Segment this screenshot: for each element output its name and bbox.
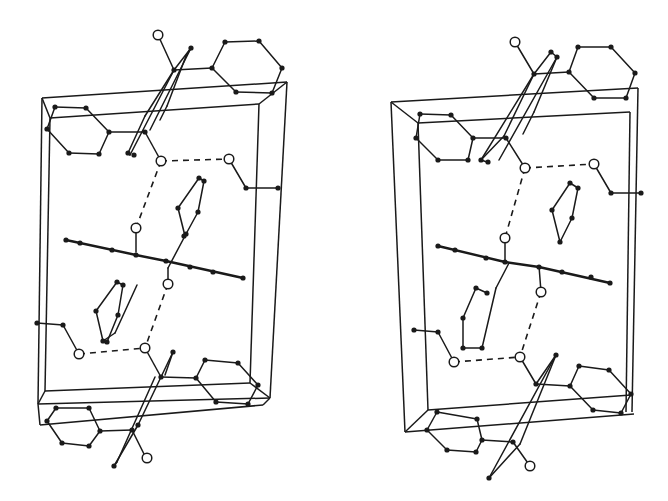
- carbon-atom: [435, 243, 440, 248]
- carbon-atom: [503, 135, 508, 140]
- oxygen-atom: [224, 154, 234, 164]
- covalent-bond: [236, 92, 272, 93]
- unit-cell-edge: [391, 88, 638, 102]
- carbon-atom: [63, 237, 68, 242]
- hydrogen-bond: [505, 168, 525, 238]
- carbon-atom: [536, 264, 541, 269]
- oxygen-atom: [589, 159, 599, 169]
- carbon-atom: [170, 349, 175, 354]
- carbon-atom: [557, 239, 562, 244]
- carbon-atom: [607, 280, 612, 285]
- covalent-bond: [534, 72, 569, 74]
- covalent-bond: [552, 183, 570, 210]
- covalent-bond: [128, 116, 145, 153]
- covalent-bond: [158, 35, 174, 70]
- covalent-bond: [100, 430, 132, 431]
- covalent-bond: [451, 115, 473, 138]
- covalent-bond: [165, 352, 173, 375]
- carbon-atom: [44, 126, 49, 131]
- covalent-bond: [414, 330, 438, 332]
- carbon-atom: [187, 264, 192, 269]
- covalent-bond: [161, 377, 196, 378]
- covalent-bond: [560, 218, 572, 242]
- carbon-atom: [554, 54, 559, 59]
- carbon-atom: [120, 282, 125, 287]
- carbon-atom: [142, 129, 147, 134]
- hydrogen-bond: [79, 348, 145, 354]
- covalent-bond: [178, 208, 185, 236]
- carbon-atom: [479, 437, 484, 442]
- carbon-atom: [235, 360, 240, 365]
- carbon-atom: [479, 345, 484, 350]
- covalent-bond: [248, 385, 258, 404]
- covalent-bond: [118, 285, 123, 315]
- carbon-atom: [97, 428, 102, 433]
- carbon-atom: [502, 259, 507, 264]
- covalent-bond: [520, 355, 556, 444]
- covalent-bond: [216, 402, 248, 404]
- carbon-atom: [114, 279, 119, 284]
- covalent-bond: [420, 114, 451, 115]
- carbon-atom: [125, 150, 130, 155]
- carbon-atom: [269, 90, 274, 95]
- oxygen-atom: [536, 287, 546, 297]
- carbon-atom: [201, 178, 206, 183]
- carbon-atom: [444, 447, 449, 452]
- unit-cell-edge: [405, 410, 428, 432]
- unit-cell-edge: [391, 102, 405, 432]
- covalent-bond: [69, 153, 99, 154]
- edge-on-ring-bond: [136, 255, 166, 261]
- covalent-bond: [437, 412, 477, 419]
- carbon-atom: [483, 255, 488, 260]
- carbon-atom: [52, 104, 57, 109]
- unit-cell-edge: [250, 104, 259, 383]
- carbon-atom: [553, 352, 558, 357]
- carbon-atom: [106, 129, 111, 134]
- carbon-atom: [485, 159, 490, 164]
- unit-cell-edge: [391, 102, 418, 123]
- covalent-bond: [427, 412, 437, 430]
- carbon-atom: [608, 44, 613, 49]
- carbon-atom: [576, 363, 581, 368]
- edge-on-ring-bond: [505, 262, 539, 267]
- ring-edge-bond: [499, 57, 557, 160]
- carbon-atom: [567, 180, 572, 185]
- carbon-atom: [628, 391, 633, 396]
- carbon-atom: [484, 290, 489, 295]
- carbon-atom: [606, 367, 611, 372]
- carbon-atom: [66, 150, 71, 155]
- carbon-atom: [111, 463, 116, 468]
- carbon-atom: [478, 157, 483, 162]
- carbon-atom: [470, 135, 475, 140]
- carbon-atom: [608, 190, 613, 195]
- unit-cell-edge: [418, 123, 428, 410]
- covalent-bond: [496, 263, 509, 288]
- carbon-atom: [435, 329, 440, 334]
- unit-cell-edge: [38, 404, 40, 425]
- carbon-atom: [209, 65, 214, 70]
- carbon-atom: [533, 381, 538, 386]
- hydrogen-bond: [136, 161, 161, 228]
- covalent-bond: [37, 323, 63, 325]
- covalent-bond: [259, 41, 282, 68]
- carbon-atom: [115, 312, 120, 317]
- carbon-atom: [245, 401, 250, 406]
- covalent-bond: [427, 430, 447, 450]
- unit-cell-edge: [45, 118, 50, 391]
- hydrogen-bond: [525, 164, 594, 168]
- oxygen-atom: [449, 357, 459, 367]
- carbon-atom: [233, 89, 238, 94]
- carbon-atom: [60, 322, 65, 327]
- carbon-atom: [135, 422, 140, 427]
- oxygen-atom: [500, 233, 510, 243]
- unit-cell-edge: [263, 398, 270, 405]
- carbon-atom: [448, 112, 453, 117]
- carbon-atom: [222, 39, 227, 44]
- carbon-atom: [559, 269, 564, 274]
- covalent-bond: [534, 57, 557, 112]
- unit-cell-edge: [270, 82, 287, 398]
- carbon-atom: [474, 416, 479, 421]
- carbon-atom: [93, 308, 98, 313]
- hydrogen-bond: [520, 292, 541, 357]
- covalent-bond: [212, 68, 236, 92]
